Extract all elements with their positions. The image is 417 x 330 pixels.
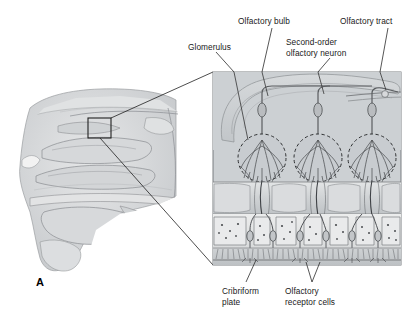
label-olfactory-bulb: Olfactory bulb	[238, 16, 290, 27]
glomerulus	[294, 134, 342, 182]
head-sagittal-illustration	[20, 89, 180, 271]
label-second-order-olfactory-neuron: Second-order olfactory neuron	[286, 37, 346, 58]
label-cribriform-plate: Cribriform plate	[222, 286, 259, 307]
cribriform-plate-layer	[213, 180, 401, 216]
glomeruli-layer	[238, 134, 396, 182]
glomerulus	[238, 134, 286, 182]
leader-olfactory-bulb	[262, 28, 272, 72]
detail-panel-content	[213, 72, 404, 265]
label-olfactory-tract: Olfactory tract	[340, 16, 392, 27]
leader-glomerulus	[216, 52, 234, 72]
olfactory-epithelium-layer	[213, 214, 401, 250]
panel-label-a: A	[36, 276, 44, 288]
leader-olfactory-tract	[380, 28, 388, 72]
label-olfactory-receptor-cells: Olfactory receptor cells	[285, 286, 335, 307]
label-glomerulus: Glomerulus	[188, 42, 231, 53]
tract-node	[382, 91, 389, 98]
figure-root: Glomerulus Olfactory bulb Second-order o…	[0, 0, 417, 330]
cilia-layer	[213, 248, 401, 265]
leader-second-order-neuron	[318, 58, 330, 72]
glomerulus	[348, 134, 396, 182]
